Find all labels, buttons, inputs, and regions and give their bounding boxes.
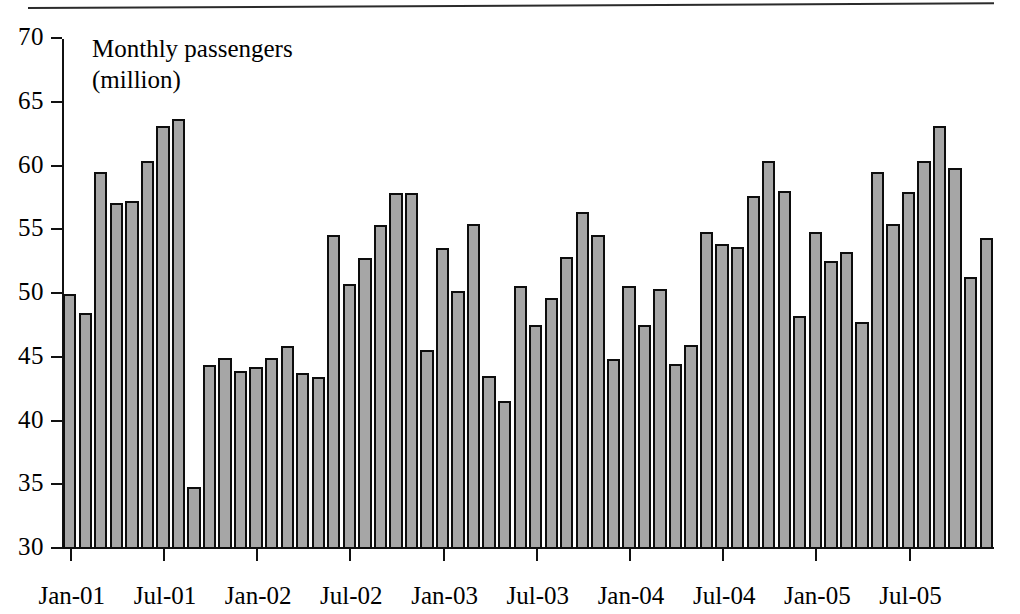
y-axis-tick: 55 — [51, 228, 62, 230]
bar — [560, 257, 573, 549]
bar — [187, 487, 200, 549]
annotation-line-2: (million) — [92, 66, 181, 93]
x-axis-tick: Jan-04 — [629, 549, 631, 561]
y-axis-tick: 45 — [51, 356, 62, 358]
x-axis-tick: Jan-03 — [443, 549, 445, 561]
y-axis-tick: 70 — [51, 37, 62, 39]
bar — [871, 172, 884, 549]
y-axis-tick-label: 40 — [18, 407, 44, 432]
x-axis-tick: Jul-05 — [909, 549, 911, 561]
x-axis-tick: Jul-02 — [349, 549, 351, 561]
y-axis-tick-label: 45 — [18, 343, 44, 368]
bar — [498, 401, 511, 549]
x-axis-tick: Jul-04 — [722, 549, 724, 561]
bar — [234, 371, 247, 550]
bar — [653, 289, 666, 549]
x-axis-tick: Jul-01 — [163, 549, 165, 561]
x-axis-tick-label: Jan-01 — [38, 583, 105, 609]
bar — [840, 252, 853, 549]
bar — [110, 203, 123, 549]
bar — [700, 232, 713, 549]
y-axis-tick-label: 30 — [18, 534, 44, 559]
bar — [389, 193, 402, 549]
y-axis-tick-label: 70 — [18, 24, 44, 49]
bar — [933, 126, 946, 549]
y-axis-tick: 40 — [51, 420, 62, 422]
bar — [358, 258, 371, 549]
x-axis-tick-label: Jan-04 — [598, 583, 665, 609]
bar — [265, 358, 278, 549]
bar — [793, 316, 806, 549]
x-axis-tick-label: Jul-05 — [879, 583, 942, 609]
y-axis-tick-label: 50 — [18, 279, 44, 304]
bar — [451, 291, 464, 549]
x-axis-tick: Jan-01 — [70, 549, 72, 561]
bar — [824, 261, 837, 549]
page-separator-rule — [28, 2, 994, 9]
bar — [886, 224, 899, 549]
x-axis-tick-label: Jul-03 — [507, 583, 570, 609]
bar — [125, 201, 138, 549]
bar — [482, 376, 495, 549]
bar — [747, 196, 760, 549]
bar — [576, 212, 589, 549]
bar — [545, 298, 558, 549]
bar — [405, 193, 418, 549]
bar — [514, 286, 527, 549]
bar — [762, 161, 775, 549]
figure-container: Monthly passengers (million) 30354045505… — [0, 0, 1020, 614]
x-axis-tick: Jan-02 — [256, 549, 258, 561]
bar — [980, 238, 993, 549]
bar — [809, 232, 822, 549]
x-axis-tick-label: Jul-04 — [693, 583, 756, 609]
bar — [467, 224, 480, 549]
x-axis-tick-label: Jan-03 — [411, 583, 478, 609]
y-axis-tick: 35 — [51, 483, 62, 485]
y-axis-tick: 60 — [51, 165, 62, 167]
bar — [638, 325, 651, 549]
bar — [778, 191, 791, 549]
bar — [529, 325, 542, 549]
bar — [172, 119, 185, 549]
bar — [281, 346, 294, 549]
x-axis-tick-label: Jul-01 — [134, 583, 197, 609]
bar — [684, 345, 697, 549]
bar — [141, 161, 154, 549]
bar — [902, 192, 915, 549]
bar — [948, 168, 961, 549]
chart-annotation: Monthly passengers (million) — [92, 33, 293, 95]
bar — [79, 313, 92, 549]
bar — [327, 235, 340, 549]
bar — [312, 377, 325, 549]
bar-chart-plot-area: Monthly passengers (million) 30354045505… — [62, 39, 994, 549]
bar — [374, 225, 387, 549]
y-axis-tick-label: 65 — [18, 88, 44, 113]
x-axis-tick-label: Jul-02 — [320, 583, 383, 609]
bar — [622, 286, 635, 549]
y-axis-tick: 50 — [51, 292, 62, 294]
bar — [156, 126, 169, 549]
bar — [420, 350, 433, 549]
x-axis-line — [62, 547, 994, 549]
bar — [249, 367, 262, 549]
y-axis-tick-label: 35 — [18, 470, 44, 495]
y-axis-tick: 30 — [51, 547, 62, 549]
y-axis-tick-label: 60 — [18, 152, 44, 177]
bar — [669, 364, 682, 549]
bar — [94, 172, 107, 549]
bar — [343, 284, 356, 549]
bar — [436, 248, 449, 549]
bar — [63, 294, 76, 549]
x-axis-tick: Jan-05 — [815, 549, 817, 561]
bar — [607, 359, 620, 549]
y-axis-tick: 65 — [51, 101, 62, 103]
bar — [218, 358, 231, 549]
annotation-line-1: Monthly passengers — [92, 35, 293, 62]
bar — [591, 235, 604, 549]
bar — [731, 247, 744, 549]
x-axis-tick-label: Jan-05 — [784, 583, 851, 609]
y-axis-tick-label: 55 — [18, 215, 44, 240]
bar — [296, 373, 309, 549]
x-axis-tick-label: Jan-02 — [225, 583, 292, 609]
bar — [203, 365, 216, 549]
